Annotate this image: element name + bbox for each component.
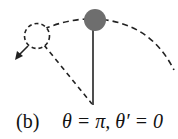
pendulum-bob: [84, 9, 106, 31]
ghost-rod: [44, 45, 92, 104]
panel-label: (b): [16, 110, 39, 133]
figure-caption: (b) θ = π, θ′ = 0: [0, 110, 178, 136]
condition-equation: θ = π, θ′ = 0: [62, 110, 163, 133]
ghost-bob: [25, 24, 50, 49]
trajectory-arc: [44, 19, 174, 70]
motion-arrow-shaft: [19, 46, 28, 55]
